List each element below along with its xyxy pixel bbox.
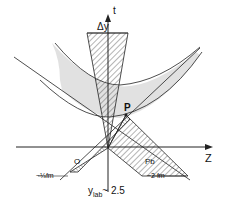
rapidity-value: ~ 2.5 xyxy=(102,185,125,196)
point-p-label: P xyxy=(124,103,131,113)
nucleus-o-label: O xyxy=(74,158,80,166)
nucleus-pb-label: Pb xyxy=(145,158,155,166)
pb-width-label: ~2 fm xyxy=(147,172,165,179)
rapidity-subscript: lab xyxy=(93,191,102,198)
point-p xyxy=(124,113,127,116)
pb-slab xyxy=(108,115,188,176)
z-axis-label: Z xyxy=(205,153,212,164)
delta-y-label: Δy xyxy=(97,22,109,32)
z-axis-arrow xyxy=(205,144,213,150)
rapidity-label: ylab~ 2.5 xyxy=(88,186,125,198)
spacetime-diagram xyxy=(0,0,227,206)
t-axis-label: t xyxy=(113,6,116,16)
o-width-label: ~⅓fm xyxy=(36,172,54,179)
